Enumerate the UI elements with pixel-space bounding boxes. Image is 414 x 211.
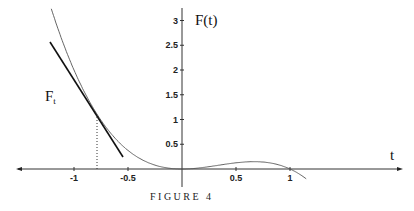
ticks: -1-0.50.510.511.522.53	[70, 16, 293, 184]
figure-caption: FIGURE 4	[150, 191, 214, 202]
y-tick-label: 1.5	[165, 90, 178, 100]
tangent-line	[50, 42, 123, 157]
x-tick-label: -0.5	[120, 173, 136, 183]
tangent-label: Ft	[45, 88, 56, 106]
y-tick-label: 0.5	[165, 139, 178, 149]
y-tick-label: 3	[173, 16, 178, 26]
x-axis-label: t	[390, 147, 395, 163]
function-curve	[51, 9, 306, 179]
x-tick-label: 0.5	[230, 173, 243, 183]
x-axis-left-arrow-icon	[16, 167, 22, 171]
y-axis-label: F(t)	[195, 12, 218, 29]
x-tick-label: 1	[287, 173, 292, 183]
figure-4-plot: -1-0.50.510.511.522.53 F(t) t Ft FIGURE …	[0, 0, 414, 211]
x-axis-right-arrow-icon	[397, 167, 403, 171]
y-tick-label: 1	[173, 115, 178, 125]
axes	[16, 8, 403, 187]
y-tick-label: 2	[173, 65, 178, 75]
y-tick-label: 2.5	[165, 40, 178, 50]
x-tick-label: -1	[70, 173, 78, 183]
